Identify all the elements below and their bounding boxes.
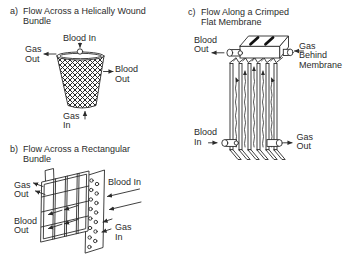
top-manifold xyxy=(240,36,289,58)
label-a-gas-out: Gas Out xyxy=(25,45,42,64)
crimped-membrane-drawing xyxy=(209,36,304,160)
gas-out-port xyxy=(267,140,282,147)
membrane-plates xyxy=(230,64,277,151)
panel-c-title: c) Flow Along a Crimped Flat Membrane xyxy=(188,7,338,27)
label-b-gas-out: Gas Out xyxy=(14,181,31,200)
panel-b-marker: b) xyxy=(10,144,19,164)
panel-c-title-text: Flow Along a Crimped Flat Membrane xyxy=(201,7,289,27)
label-b-blood-out: Blood Out xyxy=(14,217,37,236)
manifold-front-face xyxy=(240,46,280,58)
basket-inlet-nub xyxy=(77,49,82,54)
blood-in-port xyxy=(222,140,239,147)
diagram-canvas xyxy=(0,0,345,257)
blood-out-port xyxy=(227,49,243,56)
label-a-gas-in: Gas In xyxy=(63,112,80,131)
label-c-blood-out: Blood Out xyxy=(194,36,217,55)
label-a-blood-in: Blood In xyxy=(63,34,96,44)
gas-in-port xyxy=(283,49,293,56)
basket-body xyxy=(57,56,104,108)
label-c-gas-out: Gas Out xyxy=(297,133,314,152)
panel-b-title: b) Flow Across a Rectangular Bundle xyxy=(10,144,170,164)
panel-a-marker: a) xyxy=(10,6,19,26)
membrane-oxygenator-figure: a) Flow Across a Helically Wound Bundle … xyxy=(0,0,345,257)
helical-bundle-drawing xyxy=(44,43,113,119)
label-c-blood-in: Blood In xyxy=(194,128,217,147)
label-b-blood-in: Blood In xyxy=(108,178,141,188)
panel-b-title-text: Flow Across a Rectangular Bundle xyxy=(23,144,130,164)
label-c-gas-behind-membrane: Gas Behind Membrane xyxy=(299,42,345,71)
panel-c-marker: c) xyxy=(188,7,197,27)
blood-in-arrows xyxy=(108,189,142,210)
panel-a-title-text: Flow Across a Helically Wound Bundle xyxy=(23,6,146,26)
panel-a-title: a) Flow Across a Helically Wound Bundle xyxy=(10,6,175,26)
label-a-blood-out: Blood Out xyxy=(115,65,138,84)
membrane-bottom-folds xyxy=(230,150,285,160)
label-b-gas-in: Gas In xyxy=(115,223,132,242)
